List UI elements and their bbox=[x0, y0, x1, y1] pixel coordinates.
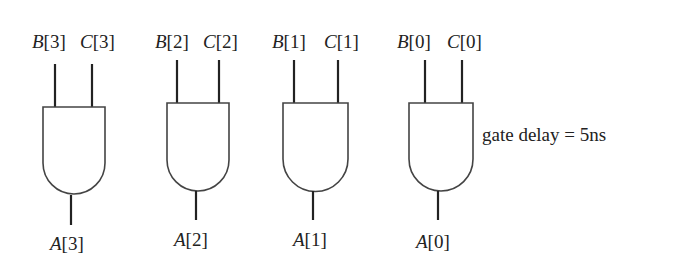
and-gate-1-body bbox=[283, 103, 348, 192]
and-gate-3: B[3] C[3] A[3] bbox=[32, 31, 115, 254]
and-gate-1: B[1] C[1] A[1] bbox=[272, 31, 359, 250]
output-a3-label: A[3] bbox=[48, 233, 84, 254]
and-gate-0-body bbox=[409, 103, 473, 191]
and-gate-2: B[2] C[2] A[2] bbox=[155, 31, 238, 250]
input-b0-label: B[0] bbox=[397, 31, 431, 52]
input-c1-label: C[1] bbox=[324, 31, 359, 52]
output-a2-label: A[2] bbox=[172, 229, 208, 250]
and-gate-3-body bbox=[43, 107, 105, 194]
gate-delay-annotation: gate delay = 5ns bbox=[482, 124, 606, 145]
input-b2-label: B[2] bbox=[155, 31, 189, 52]
input-c0-label: C[0] bbox=[447, 31, 482, 52]
input-c3-label: C[3] bbox=[80, 31, 115, 52]
input-b1-label: B[1] bbox=[272, 31, 306, 52]
output-a1-label: A[1] bbox=[291, 229, 327, 250]
input-c2-label: C[2] bbox=[203, 31, 238, 52]
and-gate-0: B[0] C[0] A[0] bbox=[397, 31, 482, 252]
and-gate-2-body bbox=[167, 103, 229, 191]
and-gate-diagram: B[3] C[3] A[3] B[2] C[2] A[2] B[1] C[1] … bbox=[0, 0, 681, 280]
output-a0-label: A[0] bbox=[414, 231, 450, 252]
input-b3-label: B[3] bbox=[32, 31, 66, 52]
